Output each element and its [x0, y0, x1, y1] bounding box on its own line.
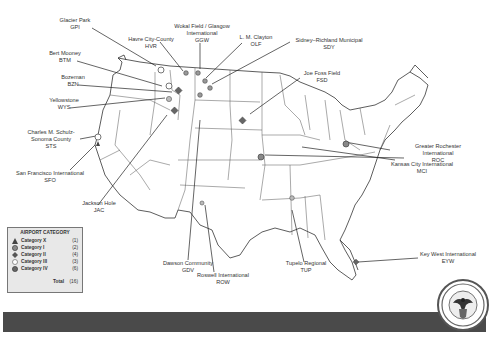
legend-row-category-ii: Category II (4)	[12, 251, 78, 258]
legend-count: (3)	[66, 259, 78, 264]
label-name: Roswell International	[197, 272, 249, 279]
label-code: BZN	[61, 81, 85, 88]
label-eyw: Key West InternationalEYW	[420, 251, 476, 265]
label-hvr: Havre City-CountyHVR	[128, 36, 174, 50]
legend-row-category-iv: Category IV (6)	[12, 265, 78, 272]
label-wys: YellowstoneWYS	[49, 97, 79, 111]
footer-bar	[3, 312, 486, 332]
label-name: Dawson Community	[163, 260, 213, 267]
label-code: HVR	[128, 43, 174, 50]
label-name: Yellowstone	[49, 97, 79, 104]
label-name: Jackson Hole	[82, 200, 116, 207]
legend-count: (6)	[66, 266, 78, 271]
label-name: Key West International	[420, 251, 476, 258]
marker-gdv	[198, 93, 203, 98]
marker-mci	[258, 154, 264, 160]
marker-btm	[166, 83, 172, 89]
label-ggw: Wokal Field / GlasgowInternationalGGW	[174, 23, 230, 44]
label-btm: Bert MooneyBTM	[49, 50, 81, 64]
legend-label: Category X	[21, 238, 66, 243]
label-code: JAC	[82, 207, 116, 214]
label-name: Joe Foss Field	[304, 70, 340, 77]
marker-gpi	[158, 67, 164, 73]
legend-label: Category III	[21, 259, 66, 264]
label-name-2: International	[174, 30, 230, 37]
legend-count: (2)	[66, 245, 78, 250]
marker-ggw	[196, 71, 201, 76]
label-name: Sidney–Richland Municipal	[295, 37, 362, 44]
marker-sfo	[96, 141, 100, 146]
legend-label: Category IV	[21, 266, 66, 271]
label-name: Charles M. Schulz-	[27, 129, 74, 136]
label-sdy: Sidney–Richland MunicipalSDY	[295, 37, 362, 51]
marker-wys	[166, 96, 171, 101]
legend-title: AIRPORT CATEGORY	[12, 230, 78, 235]
legend-row-category-x: Category X (1)	[12, 237, 78, 244]
label-sts: Charles M. Schulz-Sonoma CountySTS	[27, 129, 74, 150]
diamond-icon	[12, 252, 18, 258]
label-tup: Tupelo RegionalTUP	[286, 260, 327, 274]
label-name: Bert Mooney	[49, 50, 81, 57]
label-name: Greater Rochester	[415, 143, 461, 150]
label-jac: Jackson HoleJAC	[82, 200, 116, 214]
label-bzn: BozemanBZN	[61, 74, 85, 88]
leader-lines	[70, 28, 418, 272]
label-gpi: Glacier ParkGPI	[60, 17, 91, 31]
label-name: Havre City-County	[128, 36, 174, 43]
us-outline	[95, 58, 428, 280]
marker-hvr	[184, 71, 189, 76]
marker-jac	[171, 107, 178, 114]
label-row: Roswell InternationalROW	[197, 272, 249, 286]
marker-roc	[343, 141, 349, 147]
label-code: MCI	[391, 168, 453, 175]
label-code: ROW	[197, 279, 249, 286]
label-code: STS	[27, 143, 74, 150]
label-name: Kansas City International	[391, 161, 453, 168]
label-name-2: Sonoma County	[27, 136, 74, 143]
legend-row-category-i: Category I (2)	[12, 244, 78, 251]
label-code: BTM	[49, 57, 81, 64]
label-code: TUP	[286, 267, 327, 274]
label-code: SFO	[16, 177, 84, 184]
circle-open-icon	[12, 259, 18, 265]
label-olf: L. M. ClaytonOLF	[240, 34, 273, 48]
airport-markers	[95, 67, 359, 265]
label-name: Glacier Park	[60, 17, 91, 24]
total-label: Total	[53, 279, 64, 284]
label-code: FSD	[304, 77, 340, 84]
marker-olf	[203, 79, 208, 84]
marker-tup	[290, 196, 295, 201]
marker-row	[200, 201, 204, 205]
label-code: EYW	[420, 258, 476, 265]
legend-count: (4)	[66, 252, 78, 257]
label-code: GPI	[60, 24, 91, 31]
legend: AIRPORT CATEGORY Category X (1) Category…	[7, 227, 83, 293]
total-count: (16)	[64, 279, 78, 284]
triangle-icon	[12, 238, 18, 244]
label-code: SDY	[295, 44, 362, 51]
label-name: Wokal Field / Glasgow	[174, 23, 230, 30]
coast-detail	[118, 55, 428, 270]
seal-emblem-icon	[439, 281, 487, 329]
legend-row-category-iii: Category III (3)	[12, 258, 78, 265]
circle-hatched-icon	[12, 245, 18, 251]
label-code: GGW	[174, 37, 230, 44]
label-sfo: San Francisco InternationalSFO	[16, 170, 84, 184]
label-code: WYS	[49, 104, 79, 111]
label-mci: Kansas City InternationalMCI	[391, 161, 453, 175]
legend-label: Category I	[21, 245, 66, 250]
label-name: L. M. Clayton	[240, 34, 273, 41]
marker-sdy	[208, 86, 213, 91]
label-code: OLF	[240, 41, 273, 48]
dhs-seal-icon	[437, 279, 489, 331]
legend-total: Total (16)	[12, 279, 78, 284]
label-name: Bozeman	[61, 74, 85, 81]
label-name: San Francisco International	[16, 170, 84, 177]
legend-label: Category II	[21, 252, 66, 257]
state-borders	[100, 68, 415, 240]
label-name-2: International	[415, 150, 461, 157]
marker-fsd	[239, 117, 246, 124]
label-name: Tupelo Regional	[286, 260, 327, 267]
marker-bzn	[175, 87, 182, 94]
legend-count: (1)	[66, 238, 78, 243]
